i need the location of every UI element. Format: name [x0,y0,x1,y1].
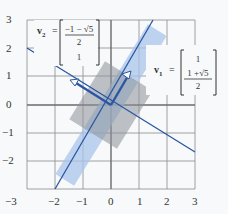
v1-numerator: 1 +√5 [184,68,212,78]
v1-first-entry: 1 [184,54,212,64]
eigenvector-diagram: 3 2 1 0 −1 −2 −3 −2 −1 0 1 2 3 v2 = −1 −… [0,0,228,214]
x-tick-2: 2 [164,196,170,207]
y-tick-2: 2 [6,43,12,54]
y-tick-neg1: −1 [2,127,14,138]
v1-symbol: v1 [154,64,163,78]
v1-equals: = [169,64,175,75]
v2-second-entry: 1 [64,52,94,62]
plot-area [0,0,228,214]
y-tick-1: 1 [6,70,12,81]
y-tick-3: 3 [6,14,12,25]
y-tick-neg2: −2 [2,155,14,166]
x-tick-neg2: −2 [48,196,60,207]
v2-numerator: −1 − √5 [64,24,94,34]
x-tick-neg1: −1 [76,196,88,207]
x-tick-1: 1 [137,196,143,207]
y-tick-0: 0 [6,99,12,110]
v1-denominator: 2 [184,81,212,91]
x-tick-neg3: −3 [5,196,17,207]
x-tick-0: 0 [108,196,114,207]
x-tick-3: 3 [192,196,198,207]
v2-equals: = [52,25,58,36]
v2-denominator: 2 [64,37,94,47]
v2-symbol: v2 [37,25,46,39]
